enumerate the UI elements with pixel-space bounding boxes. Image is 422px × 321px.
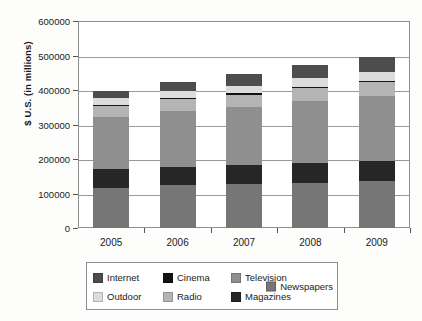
x-axis-tick (144, 228, 145, 233)
x-axis-tick-label: 2006 (143, 237, 213, 248)
y-axis-tick (73, 56, 78, 57)
legend-swatch-cinema (163, 273, 173, 283)
legend-label-magazines: Magazines (245, 291, 291, 302)
legend-entry-internet[interactable]: Internet (93, 272, 163, 283)
legend-swatch-radio (163, 292, 173, 302)
y-axis-tick (73, 21, 78, 22)
legend-swatch-newspapers (266, 281, 276, 291)
x-axis-tick-label: 2007 (209, 237, 279, 248)
y-axis-tick-label: 400000 (0, 85, 70, 96)
y-axis-tick-label: 0 (0, 223, 70, 234)
y-axis-tick-label: 500000 (0, 50, 70, 61)
bar-segment-television[interactable] (292, 101, 328, 163)
bar-segment-internet[interactable] (160, 82, 196, 91)
legend-label-cinema: Cinema (177, 272, 210, 283)
legend-entry-newspapers[interactable]: Newspapers (266, 281, 333, 292)
legend-swatch-television (231, 273, 241, 283)
chart-legend: InternetCinemaTelevisionOutdoorRadioMaga… (86, 262, 338, 310)
bar-2006[interactable] (160, 82, 196, 228)
stacked-bar-chart: $ U.S. (in millions) 0100000200000300000… (0, 0, 422, 321)
x-axis-tick (211, 228, 212, 233)
bar-segment-internet[interactable] (93, 91, 129, 99)
legend-label-internet: Internet (107, 272, 139, 283)
y-axis-tick (73, 194, 78, 195)
y-axis-title: $ U.S. (in millions) (22, 9, 33, 159)
bar-segment-outdoor[interactable] (292, 78, 328, 87)
bar-segment-television[interactable] (226, 107, 262, 165)
bar-segment-newspapers[interactable] (93, 188, 129, 228)
x-axis-tick (277, 228, 278, 233)
legend-entry-outdoor[interactable]: Outdoor (93, 291, 163, 302)
y-axis-tick (73, 90, 78, 91)
bar-2009[interactable] (359, 57, 395, 228)
y-axis-tick-label: 200000 (0, 154, 70, 165)
legend-swatch-internet (93, 273, 103, 283)
legend-swatch-outdoor (93, 292, 103, 302)
bar-segment-television[interactable] (359, 96, 395, 161)
legend-label-radio: Radio (177, 291, 202, 302)
x-axis-tick (344, 228, 345, 233)
y-axis-tick (73, 159, 78, 160)
bar-segment-radio[interactable] (359, 82, 395, 96)
bar-2005[interactable] (93, 91, 129, 228)
bar-segment-internet[interactable] (359, 57, 395, 73)
bar-2007[interactable] (226, 74, 262, 228)
y-axis-tick-label: 300000 (0, 119, 70, 130)
y-axis-tick (73, 125, 78, 126)
bar-segment-newspapers[interactable] (160, 185, 196, 228)
x-axis-tick-label: 2005 (76, 237, 146, 248)
bar-segment-outdoor[interactable] (160, 91, 196, 98)
bar-2008[interactable] (292, 65, 328, 229)
x-axis-tick-label: 2008 (275, 237, 345, 248)
bar-segment-radio[interactable] (226, 95, 262, 108)
bar-segment-magazines[interactable] (160, 167, 196, 185)
y-axis-tick (73, 228, 78, 229)
bar-segment-magazines[interactable] (93, 169, 129, 188)
legend-swatch-magazines (231, 292, 241, 302)
bar-segment-radio[interactable] (160, 99, 196, 111)
bar-segment-radio[interactable] (292, 88, 328, 101)
legend-label-newspapers: Newspapers (280, 281, 333, 292)
bar-segment-magazines[interactable] (292, 163, 328, 183)
bar-segment-internet[interactable] (226, 74, 262, 85)
bar-segment-radio[interactable] (93, 106, 129, 117)
x-axis-tick-label: 2009 (342, 237, 412, 248)
legend-label-outdoor: Outdoor (107, 291, 141, 302)
y-axis-tick-label: 600000 (0, 16, 70, 27)
x-axis-tick (410, 228, 411, 233)
bar-segment-internet[interactable] (292, 65, 328, 78)
bar-segment-outdoor[interactable] (359, 72, 395, 81)
legend-entry-radio[interactable]: Radio (163, 291, 231, 302)
bar-segment-magazines[interactable] (359, 161, 395, 181)
bar-segment-outdoor[interactable] (226, 86, 262, 94)
bar-segment-television[interactable] (93, 117, 129, 169)
y-axis-tick-label: 100000 (0, 188, 70, 199)
legend-entry-magazines[interactable]: Magazines (231, 291, 323, 302)
bar-segment-newspapers[interactable] (359, 181, 395, 228)
bar-segment-newspapers[interactable] (226, 184, 262, 228)
bar-segment-television[interactable] (160, 111, 196, 167)
bar-segment-magazines[interactable] (226, 165, 262, 184)
bar-segment-newspapers[interactable] (292, 183, 328, 228)
legend-entry-cinema[interactable]: Cinema (163, 272, 231, 283)
